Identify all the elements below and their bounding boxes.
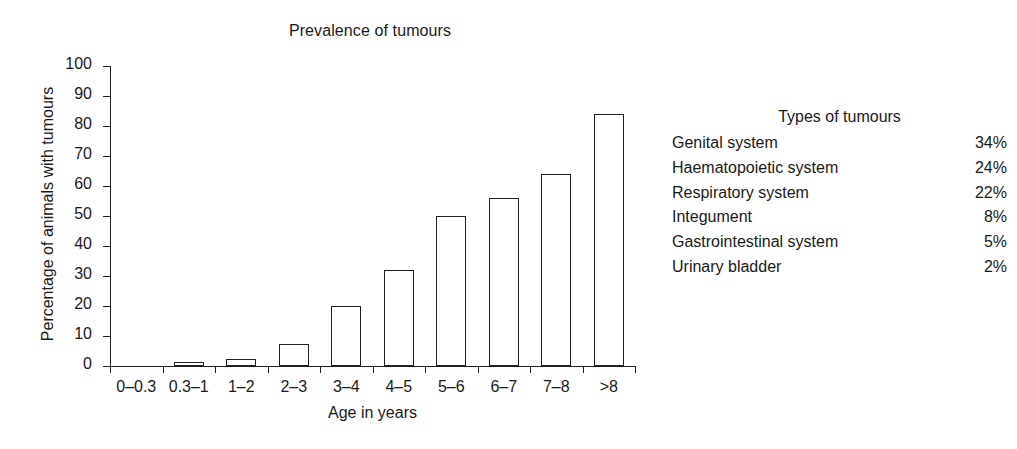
y-tick: 70 bbox=[103, 156, 110, 157]
x-tick-label: 6–7 bbox=[490, 378, 517, 396]
y-tick: 80 bbox=[103, 126, 110, 127]
y-tick: 100 bbox=[103, 66, 110, 67]
table-row: Genital system34% bbox=[672, 131, 1007, 156]
y-tick: 30 bbox=[103, 276, 110, 277]
tumour-type-name: Respiratory system bbox=[672, 181, 953, 206]
bar bbox=[594, 114, 624, 366]
x-tick bbox=[373, 366, 374, 373]
bar bbox=[226, 359, 256, 367]
tumour-type-percentage: 24% bbox=[953, 156, 1007, 181]
tumour-type-name: Gastrointestinal system bbox=[672, 230, 953, 255]
tumour-type-percentage: 8% bbox=[953, 205, 1007, 230]
y-tick-label: 60 bbox=[52, 175, 92, 193]
x-tick bbox=[425, 366, 426, 373]
x-tick-label: 4–5 bbox=[385, 378, 412, 396]
x-tick bbox=[215, 366, 216, 373]
x-tick bbox=[478, 366, 479, 373]
bar bbox=[541, 174, 571, 366]
tumour-type-percentage: 34% bbox=[953, 131, 1007, 156]
x-tick bbox=[530, 366, 531, 373]
x-axis-title: Age in years bbox=[110, 404, 635, 422]
y-tick-label: 30 bbox=[52, 265, 92, 283]
x-tick-label: 1–2 bbox=[228, 378, 255, 396]
y-tick-label: 40 bbox=[52, 235, 92, 253]
tumour-type-percentage: 2% bbox=[953, 255, 1007, 280]
y-tick-label: 0 bbox=[52, 355, 92, 373]
x-tick-label: 2–3 bbox=[280, 378, 307, 396]
x-tick-label: 7–8 bbox=[543, 378, 570, 396]
plot-area: 0102030405060708090100 0–0.30.3–11–22–33… bbox=[110, 66, 635, 366]
y-tick-label: 90 bbox=[52, 85, 92, 103]
tumour-type-name: Genital system bbox=[672, 131, 953, 156]
y-tick-label: 20 bbox=[52, 295, 92, 313]
x-tick bbox=[268, 366, 269, 373]
types-panel-heading: Types of tumours bbox=[672, 108, 1007, 126]
x-tick bbox=[163, 366, 164, 373]
bar bbox=[384, 270, 414, 366]
table-row: Respiratory system22% bbox=[672, 181, 1007, 206]
types-table: Genital system34%Haematopoietic system24… bbox=[672, 131, 1007, 280]
tumour-type-name: Urinary bladder bbox=[672, 255, 953, 280]
types-of-tumours-panel: Types of tumours Genital system34%Haemat… bbox=[672, 108, 1007, 280]
x-tick-label: 5–6 bbox=[438, 378, 465, 396]
y-tick-label: 70 bbox=[52, 145, 92, 163]
tumour-type-name: Integument bbox=[672, 205, 953, 230]
bar bbox=[331, 306, 361, 366]
x-tick bbox=[320, 366, 321, 373]
bar bbox=[489, 198, 519, 366]
y-tick-label: 100 bbox=[52, 55, 92, 73]
y-tick: 0 bbox=[103, 366, 110, 367]
figure-tumour-prevalence: Prevalence of tumours Percentage of anim… bbox=[0, 0, 1017, 449]
chart-title: Prevalence of tumours bbox=[110, 22, 630, 40]
x-tick-label: >8 bbox=[600, 378, 618, 396]
y-tick: 90 bbox=[103, 96, 110, 97]
table-row: Gastrointestinal system5% bbox=[672, 230, 1007, 255]
table-row: Integument8% bbox=[672, 205, 1007, 230]
tumour-type-percentage: 5% bbox=[953, 230, 1007, 255]
bar-chart: Prevalence of tumours Percentage of anim… bbox=[0, 0, 660, 449]
x-tick-label: 0–0.3 bbox=[116, 378, 156, 396]
y-tick: 50 bbox=[103, 216, 110, 217]
x-tick bbox=[583, 366, 584, 373]
y-tick: 60 bbox=[103, 186, 110, 187]
y-tick: 20 bbox=[103, 306, 110, 307]
x-tick bbox=[110, 366, 111, 373]
tumour-type-name: Haematopoietic system bbox=[672, 156, 953, 181]
bar bbox=[436, 216, 466, 366]
table-row: Haematopoietic system24% bbox=[672, 156, 1007, 181]
y-tick-label: 80 bbox=[52, 115, 92, 133]
bar bbox=[279, 344, 309, 367]
bar bbox=[174, 362, 204, 367]
y-axis-line bbox=[110, 66, 111, 367]
y-tick: 10 bbox=[103, 336, 110, 337]
tumour-type-percentage: 22% bbox=[953, 181, 1007, 206]
x-tick-label: 0.3–1 bbox=[169, 378, 209, 396]
x-tick bbox=[635, 366, 636, 373]
y-tick: 40 bbox=[103, 246, 110, 247]
y-tick-label: 50 bbox=[52, 205, 92, 223]
y-tick-label: 10 bbox=[52, 325, 92, 343]
table-row: Urinary bladder2% bbox=[672, 255, 1007, 280]
x-tick-label: 3–4 bbox=[333, 378, 360, 396]
